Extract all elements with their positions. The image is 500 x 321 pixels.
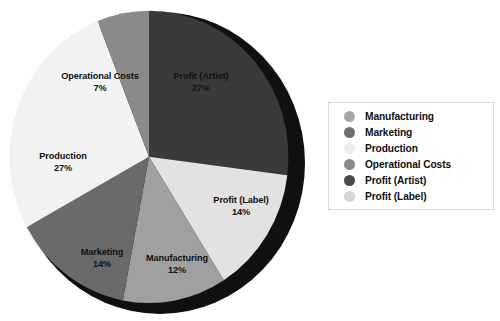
legend-item-label: Profit (Artist) [365,175,426,186]
pie-chart-figure: Profit (Artist) 27% Operational Costs 7%… [0,0,500,321]
legend-item[interactable]: Marketing [329,124,493,140]
pie-slice[interactable] [149,11,288,175]
pie-slices-group [10,11,289,303]
legend-item-label: Operational Costs [365,159,451,170]
legend-item-label: Marketing [365,127,412,138]
legend-item-label: Manufacturing [365,111,434,122]
legend-item[interactable]: Profit (Artist) [329,172,493,188]
legend-item[interactable]: Operational Costs [329,156,493,172]
legend-list: ManufacturingMarketingProductionOperatio… [329,108,493,204]
legend-item[interactable]: Manufacturing [329,108,493,124]
chart-legend: ManufacturingMarketingProductionOperatio… [328,102,494,210]
legend-swatch-icon [344,191,355,202]
legend-item-label: Production [365,143,418,154]
legend-item-label: Profit (Label) [365,191,426,202]
pie-chart-graphic: Profit (Artist) 27% Operational Costs 7%… [8,6,318,316]
legend-item[interactable]: Profit (Label) [329,188,493,204]
pie-svg [8,6,318,316]
legend-swatch-icon [344,143,355,154]
legend-item[interactable]: Production [329,140,493,156]
legend-swatch-icon [344,175,355,186]
legend-swatch-icon [344,127,355,138]
legend-swatch-icon [344,159,355,170]
legend-swatch-icon [344,111,355,122]
